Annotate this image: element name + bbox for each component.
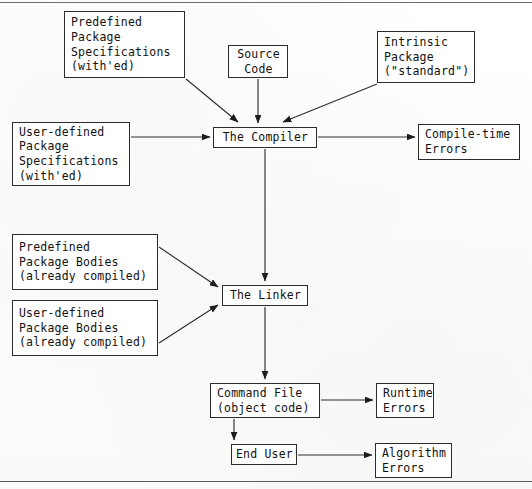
node-the-compiler: The Compiler <box>213 127 317 148</box>
node-label-line: Source <box>237 47 280 62</box>
node-label-line: Package Bodies <box>19 321 152 336</box>
node-label-line: (object code) <box>217 401 314 416</box>
node-label-line: Specifications <box>19 154 124 169</box>
node-label-line: The Compiler <box>223 130 308 145</box>
node-label-line: Predefined <box>71 15 179 30</box>
node-label-line: ("standard") <box>384 64 469 79</box>
bottom-rule <box>0 481 532 482</box>
node-label-line: Intrinsic <box>384 35 469 50</box>
arrow-user-defined-bodies-to-linker <box>159 305 218 343</box>
node-label-line: Errors <box>425 142 514 157</box>
node-label-line: Errors <box>382 461 446 476</box>
node-source-code: SourceCode <box>228 45 288 78</box>
node-label-line: Predefined <box>19 240 152 255</box>
node-label-line: End User <box>236 447 293 462</box>
node-label-line: Algorithm <box>382 446 446 461</box>
node-user-defined-package-bodies: User-definedPackage Bodies(already compi… <box>12 300 158 356</box>
node-label-line: Package <box>19 139 124 154</box>
node-predefined-package-specifications: PredefinedPackageSpecifications(with'ed) <box>64 11 185 78</box>
node-end-user: End User <box>231 444 297 465</box>
node-algorithm-errors: AlgorithmErrors <box>375 443 452 478</box>
arrow-intrinsic-package-to-compiler <box>283 84 377 122</box>
node-compile-time-errors: Compile-timeErrors <box>418 124 520 160</box>
node-label-line: The Linker <box>230 288 301 303</box>
node-user-defined-package-specifications: User-definedPackageSpecifications(with'e… <box>12 122 130 186</box>
node-label-line: Command File <box>217 386 314 401</box>
node-label-line: Code <box>244 62 273 77</box>
node-label-line: User-defined <box>19 306 152 321</box>
node-predefined-package-bodies: PredefinedPackage Bodies(already compile… <box>12 234 158 290</box>
arrow-predefined-bodies-to-linker <box>159 247 218 287</box>
arrow-predefined-specs-to-compiler <box>186 79 238 122</box>
node-label-line: (already compiled) <box>19 335 152 350</box>
node-label-line: (with'ed) <box>19 169 124 184</box>
node-label-line: Errors <box>383 401 428 416</box>
node-intrinsic-package: IntrinsicPackage("standard") <box>377 31 475 83</box>
node-label-line: (already compiled) <box>19 269 152 284</box>
node-label-line: Package <box>384 50 469 65</box>
node-label-line: User-defined <box>19 125 124 140</box>
node-label-line: (with'ed) <box>71 59 179 74</box>
node-label-line: Runtime <box>383 386 428 401</box>
node-the-linker: The Linker <box>222 285 308 306</box>
diagram-page: PredefinedPackageSpecifications(with'ed)… <box>0 0 532 489</box>
node-label-line: Package Bodies <box>19 255 152 270</box>
node-label-line: Compile-time <box>425 127 514 142</box>
node-command-file: Command File(object code) <box>210 383 320 418</box>
node-runtime-errors: RuntimeErrors <box>376 383 434 418</box>
node-label-line: Package <box>71 30 179 45</box>
node-label-line: Specifications <box>71 45 179 60</box>
